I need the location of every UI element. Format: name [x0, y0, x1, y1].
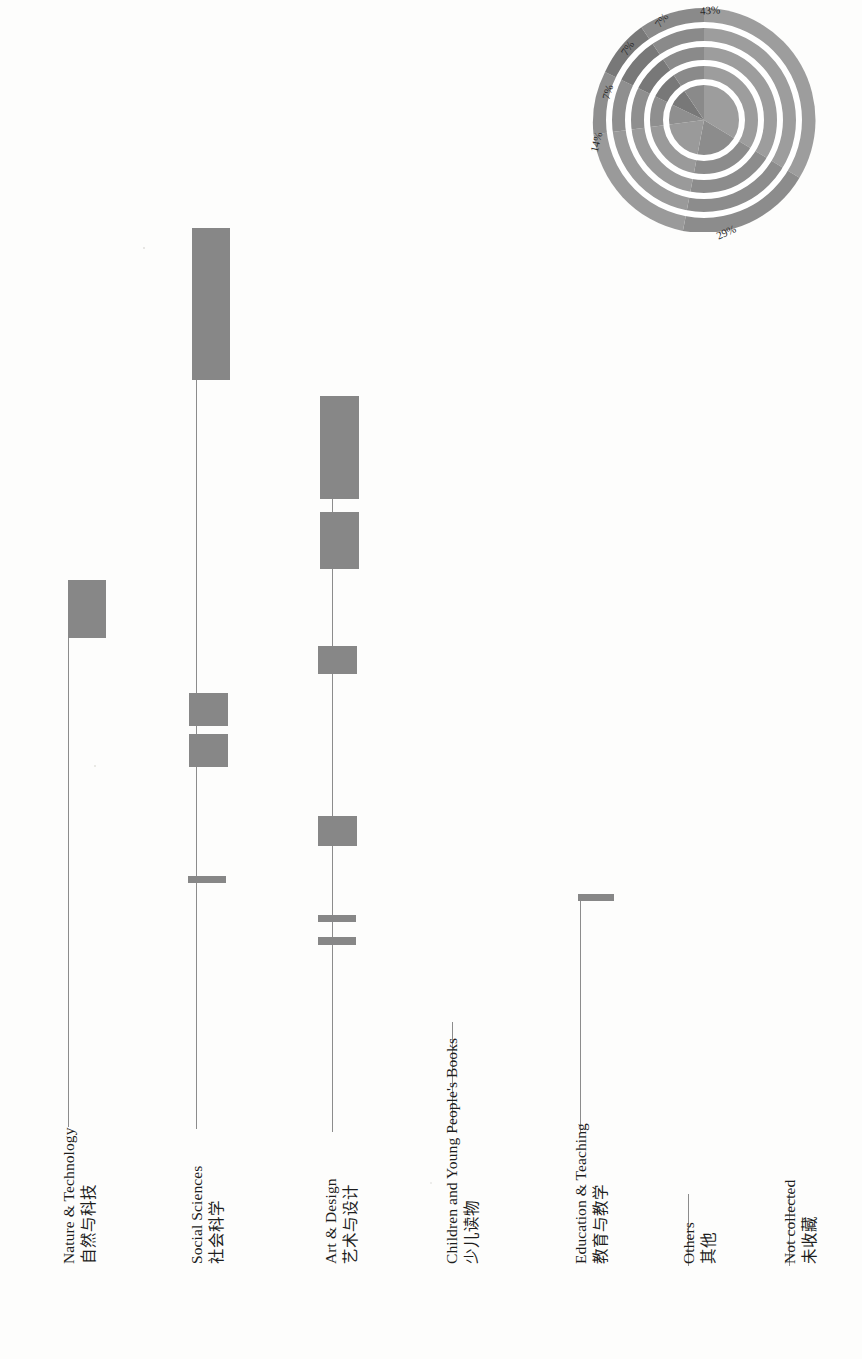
label-en-notcollected: Not collected — [781, 1180, 800, 1264]
scan-speck — [143, 247, 145, 249]
category-not-collected: Not collected 未收藏 — [0, 0, 862, 1359]
label-zh-notcollected: 未收藏 — [801, 1216, 820, 1264]
category-label-not-collected: Not collected 未收藏 — [781, 1180, 820, 1264]
scan-speck — [430, 1182, 432, 1184]
document-page: 43% 7% 7% 7% 14% 29% Nature & Technology… — [0, 0, 862, 1359]
scan-speck — [94, 765, 96, 767]
